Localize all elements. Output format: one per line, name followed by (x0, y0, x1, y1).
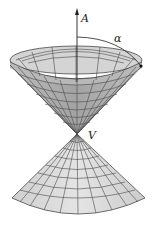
angle-label: α (114, 32, 122, 45)
double-cone-diagram: A α V (0, 0, 158, 232)
lower-nappe (12, 134, 145, 214)
upper-nappe (10, 46, 142, 134)
axis-label: A (80, 12, 89, 25)
rim-point (139, 64, 142, 67)
vertex-label: V (88, 129, 97, 142)
